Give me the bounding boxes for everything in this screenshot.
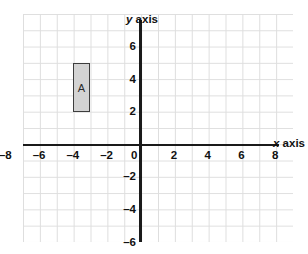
- x-tick-label: 4: [205, 150, 211, 162]
- y-axis-line: [139, 20, 142, 242]
- x-tick-label: 2: [171, 150, 177, 162]
- x-tick-label: –8: [0, 150, 12, 162]
- x-axis-line: [23, 144, 279, 147]
- x-tick-label: 8: [272, 150, 278, 162]
- y-axis-word: axis: [136, 13, 158, 25]
- x-tick-label: –6: [33, 150, 46, 162]
- y-tick-label: 6: [130, 41, 136, 53]
- y-tick-label: –6: [123, 237, 136, 249]
- grid-background: [23, 14, 293, 242]
- y-axis-variable: y: [126, 13, 132, 25]
- x-axis-variable: x: [273, 137, 279, 149]
- y-axis-label: y axis: [126, 14, 158, 26]
- y-tick-label: –4: [123, 204, 136, 216]
- x-tick-label: 6: [238, 150, 244, 162]
- y-tick-label: –2: [123, 172, 136, 184]
- y-tick-label: 4: [130, 74, 136, 86]
- shape-a-label: A: [78, 83, 85, 94]
- x-tick-label: –2: [100, 150, 113, 162]
- x-axis-label: x axis: [273, 138, 305, 150]
- x-axis-word: axis: [283, 137, 305, 149]
- x-tick-label: –4: [66, 150, 79, 162]
- y-tick-label: 2: [130, 106, 136, 118]
- coordinate-plane-figure: –8–6–4–202468 642–2–4–6 x axis y axis A: [0, 0, 308, 254]
- x-tick-label: 0: [131, 150, 137, 162]
